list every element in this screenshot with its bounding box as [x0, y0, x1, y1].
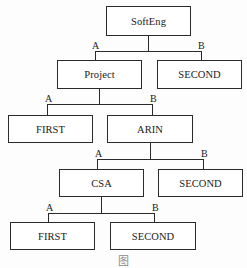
connector-to-first-2 — [48, 213, 49, 222]
node-label: SECOND — [179, 178, 222, 189]
edge-label-b: B — [152, 203, 159, 213]
node-first-2: FIRST — [10, 222, 95, 250]
edge-label-a: A — [45, 94, 52, 104]
node-label: SECOND — [132, 231, 175, 242]
connector-to-arin — [152, 104, 153, 115]
connector-to-csa — [97, 159, 98, 169]
figure-caption: 图 — [0, 252, 247, 268]
node-arin: ARIN — [107, 115, 193, 143]
connector-to-second-3 — [154, 213, 155, 222]
node-second-2: SECOND — [158, 169, 243, 197]
node-project: Project — [57, 60, 142, 89]
edge-label-a: A — [46, 203, 53, 213]
edge-label-b: B — [201, 149, 208, 159]
connector-to-second-2 — [203, 159, 204, 169]
edge-label-a: A — [92, 41, 99, 51]
node-label: ARIN — [137, 124, 163, 135]
node-csa: CSA — [59, 169, 144, 197]
connector-arin-branch — [97, 159, 204, 160]
connector-to-second-1 — [201, 51, 202, 60]
node-label: SECOND — [178, 69, 221, 80]
node-label: Project — [84, 69, 114, 80]
node-label: FIRST — [38, 231, 67, 242]
connector-csa-stem — [101, 197, 102, 213]
connector-to-project — [95, 51, 96, 60]
edge-label-b: B — [150, 94, 157, 104]
connector-softeng-stem — [148, 36, 149, 51]
connector-project-branch — [47, 104, 153, 105]
node-label: CSA — [91, 178, 112, 189]
node-softeng: SoftEng — [106, 6, 191, 36]
connector-softeng-branch — [95, 51, 202, 52]
node-label: SoftEng — [131, 16, 166, 27]
node-second-1: SECOND — [157, 60, 242, 89]
connector-arin-stem — [150, 143, 151, 159]
node-label: FIRST — [36, 124, 65, 135]
connector-project-stem — [99, 89, 100, 104]
node-second-3: SECOND — [110, 222, 196, 250]
node-first-1: FIRST — [8, 115, 93, 143]
edge-label-a: A — [95, 149, 102, 159]
connector-csa-branch — [48, 213, 155, 214]
connector-to-first-1 — [47, 104, 48, 115]
edge-label-b: B — [198, 41, 205, 51]
